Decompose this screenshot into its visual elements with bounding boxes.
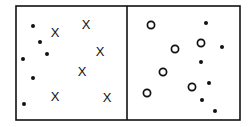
circle-marker <box>171 45 178 52</box>
dot-marker <box>213 109 217 113</box>
x-marker: X <box>78 64 87 79</box>
circle-marker <box>188 83 195 90</box>
two-panel-scatter-diagram: XXXXXX <box>0 0 251 127</box>
dot-marker <box>199 60 203 64</box>
x-marker: X <box>82 17 91 32</box>
dot-marker <box>31 24 35 28</box>
dot-marker <box>38 40 42 44</box>
right-panel <box>143 21 224 113</box>
dot-marker <box>204 21 208 25</box>
dot-marker <box>220 45 224 49</box>
x-marker: X <box>103 90 112 105</box>
x-marker: X <box>51 25 60 40</box>
dot-marker <box>200 98 204 102</box>
circle-marker <box>143 89 150 96</box>
dot-marker <box>207 81 211 85</box>
x-marker: X <box>51 89 60 104</box>
circle-marker <box>197 39 204 46</box>
dot-marker <box>22 102 26 106</box>
dot-marker <box>21 57 25 61</box>
circle-marker <box>147 21 154 28</box>
left-panel: XXXXXX <box>21 17 112 107</box>
x-marker: X <box>96 44 105 59</box>
circle-marker <box>159 68 166 75</box>
dot-marker <box>31 76 35 80</box>
dot-marker <box>45 52 49 56</box>
